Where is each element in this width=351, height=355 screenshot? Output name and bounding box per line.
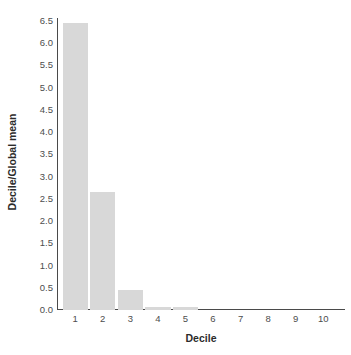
y-axis-tick-label: 6.0 [7, 37, 53, 48]
bar-chart: Decile/Global mean 0.00.51.01.52.02.53.0… [0, 0, 351, 355]
y-axis-tick-label: 0.5 [7, 281, 53, 292]
x-axis-tick-label: 7 [238, 313, 243, 324]
y-axis-tick-label: 4.0 [7, 126, 53, 137]
y-axis-tick-label: 0.0 [7, 304, 53, 315]
x-axis-tick-label: 6 [210, 313, 215, 324]
x-axis-tick-label: 8 [265, 313, 270, 324]
y-axis-tick-label: 3.0 [7, 170, 53, 181]
y-axis-tick-label: 2.0 [7, 215, 53, 226]
y-axis-tick-label: 1.0 [7, 259, 53, 270]
y-axis-tick-label: 6.5 [7, 15, 53, 26]
y-axis-tick-label: 5.0 [7, 81, 53, 92]
bar [63, 23, 88, 310]
x-axis-tick-label: 9 [293, 313, 298, 324]
x-axis-title: Decile [57, 332, 345, 344]
x-axis-tick-label: 4 [155, 313, 160, 324]
bar [118, 290, 143, 310]
x-axis-tick-label: 1 [73, 313, 78, 324]
x-axis-tick-label: 5 [183, 313, 188, 324]
y-axis-tick-label: 4.5 [7, 103, 53, 114]
y-axis-tick-label: 3.5 [7, 148, 53, 159]
x-axis-tick-label: 2 [100, 313, 105, 324]
y-axis-tick-label: 1.5 [7, 237, 53, 248]
x-axis-tick-label: 3 [128, 313, 133, 324]
x-axis-tick-label: 10 [318, 313, 329, 324]
y-axis-tick-label: 2.5 [7, 192, 53, 203]
bar [90, 192, 115, 310]
bar-series [57, 0, 345, 310]
y-axis-tick-label: 5.5 [7, 59, 53, 70]
bar [145, 307, 170, 310]
x-axis-tick-labels: 12345678910 [57, 313, 345, 329]
y-axis-tick-labels: 0.00.51.01.52.02.53.03.54.04.55.05.56.06… [0, 0, 53, 355]
bar [173, 307, 198, 310]
